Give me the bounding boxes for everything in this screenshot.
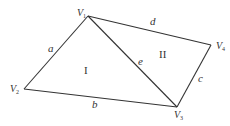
edge-label-b: b (92, 98, 98, 110)
edge-label-c: c (198, 72, 203, 84)
edge-label-d: d (150, 15, 156, 27)
edge-b (24, 89, 177, 107)
vertex-label-v2: V2 (10, 83, 19, 95)
region-label-2: II (159, 48, 167, 60)
region-label-1: I (84, 64, 88, 76)
vertex-label-v4: V4 (216, 40, 225, 52)
edge-a (24, 16, 88, 89)
edge-label-a: a (48, 42, 54, 54)
edge-c (177, 45, 211, 107)
edge-label-e: e (138, 55, 143, 67)
diagram-canvas: V1 V2 V3 V4 a b c d e I II (0, 0, 230, 126)
edge-e (88, 16, 177, 107)
vertex-label-v3: V3 (174, 109, 183, 121)
vertex-label-v1: V1 (77, 7, 86, 19)
